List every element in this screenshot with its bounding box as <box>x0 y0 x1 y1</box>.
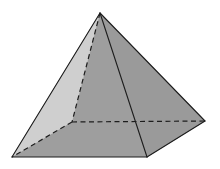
figure-container <box>0 0 220 169</box>
pyramid-diagram <box>0 0 220 169</box>
